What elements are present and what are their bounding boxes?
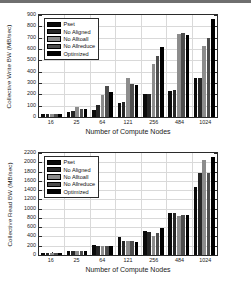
read-chart-x-axis-label: Number of Compute Nodes [38,266,218,273]
legend-item-label: Pset [64,21,75,27]
legend-color-swatch [47,182,61,187]
bar [54,114,58,117]
bar [101,246,105,255]
bar [160,228,164,255]
bar [173,213,177,255]
bar [160,47,164,117]
bar [177,34,181,117]
bar [67,251,71,255]
y-tick-label: 400 [27,68,36,74]
write-bandwidth-chart: Collective Write BW (MB/sec) 01002003004… [0,6,251,144]
bar-group [141,153,166,255]
bar-group [141,15,166,117]
bar [58,253,62,255]
bar [202,160,206,256]
y-tick-label: 1000 [24,205,36,211]
y-tick-label: 1400 [24,186,36,192]
read-chart-y-tick-labels: 0200400600800100012001400160018002000220… [14,152,36,256]
x-tick-label: 256 [141,119,167,125]
legend-color-swatch [47,160,61,165]
bar [92,110,96,117]
bar [50,114,54,117]
bar [202,46,206,117]
x-tick-label: 16 [38,257,64,263]
write-chart-legend: PsetNo AlignedNo AlltoallNo AllreduceOpt… [44,18,99,60]
legend-color-swatch [47,167,61,172]
y-tick-mark [39,117,42,118]
bar [105,246,109,255]
legend-item-label: No Alltoall [64,174,89,180]
legend-item-label: No Allreduce [64,43,96,49]
bar [194,78,198,117]
write-chart-y-tick-labels: 0100200300400500600700800900 [14,14,36,118]
bar [118,103,122,117]
bar [156,233,160,255]
bar [96,246,100,256]
bar [71,251,75,255]
bar [156,56,160,117]
x-tick-label: 256 [141,257,167,263]
x-tick-label: 121 [115,119,141,125]
y-tick-label: 100 [27,102,36,108]
y-tick-label: 800 [27,214,36,220]
legend-color-swatch [47,36,61,41]
write-chart-y-axis-label-text: Collective Write BW (MB/sec) [6,24,13,108]
y-tick-mark [39,255,42,256]
x-tick-label: 1024 [192,257,218,263]
legend-item: Optimized [47,188,95,195]
legend-item-label: Optimized [64,51,89,57]
y-tick-label: 800 [27,22,36,28]
bar [198,78,202,117]
y-tick-label: 1200 [24,195,36,201]
figure-page: Collective Write BW (MB/sec) 01002003004… [0,0,251,285]
bar-group [166,153,191,255]
bar [173,90,177,117]
bar [147,232,151,255]
bar-group [192,153,217,255]
x-tick-label: 25 [64,257,90,263]
y-tick-label: 700 [27,34,36,40]
legend-item-label: No Alltoall [64,36,89,42]
y-tick-label: 200 [27,90,36,96]
bar [118,237,122,255]
y-tick-label: 900 [27,11,36,17]
read-chart-x-tick-labels: 1625641212564841024 [38,257,218,263]
y-tick-label: 200 [27,242,36,248]
y-tick-label: 0 [33,251,36,257]
bar [80,109,84,118]
y-tick-label: 600 [27,45,36,51]
legend-item-label: No Allreduce [64,181,96,187]
legend-color-swatch [47,51,61,56]
bar-group [166,15,191,117]
legend-item: Optimized [47,50,95,57]
read-chart-legend: PsetNo AlignedNo AlltoallNo AllreduceOpt… [44,156,99,198]
legend-item: No Allreduce [47,43,95,50]
bar [75,251,79,255]
bar [101,95,105,117]
bar [130,241,134,255]
bar [181,215,185,255]
bar [84,251,88,255]
bar [105,86,109,117]
legend-item: Pset [47,159,95,166]
y-tick-label: 2200 [24,149,36,155]
y-tick-label: 300 [27,79,36,85]
legend-color-swatch [47,29,61,34]
legend-item-label: No Aligned [64,29,91,35]
bar [143,231,147,255]
x-tick-label: 484 [167,119,193,125]
bar [177,216,181,255]
x-tick-label: 484 [167,257,193,263]
read-bandwidth-chart: Collective Read BW (MB/sec) 020040060080… [0,146,251,285]
bar [152,236,156,255]
top-divider-rule [0,0,251,3]
bar [54,253,58,255]
legend-color-swatch [47,189,61,194]
bar [168,213,172,255]
legend-color-swatch [47,174,61,179]
bar [80,251,84,255]
bar [211,19,215,117]
bar [168,91,172,117]
bar [211,157,215,255]
x-tick-label: 64 [89,119,115,125]
